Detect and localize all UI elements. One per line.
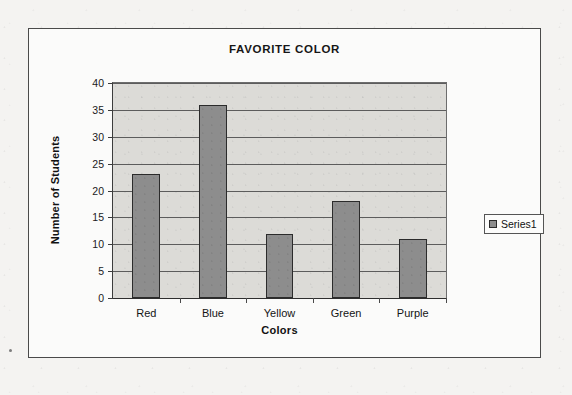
x-axis-title: Colors — [112, 324, 447, 336]
y-axis-tick — [108, 83, 113, 84]
scan-artifact-speck — [9, 349, 12, 352]
y-axis-tick-label: 20 — [92, 185, 104, 197]
y-axis-tick-label: 5 — [98, 265, 104, 277]
x-axis-tick — [246, 298, 247, 303]
y-axis-tick-label: 25 — [92, 158, 104, 170]
gridline — [113, 83, 446, 84]
gridline — [113, 137, 446, 138]
y-axis-title: Number of Students — [49, 136, 61, 245]
y-axis-tick — [108, 217, 113, 218]
x-axis-tick — [180, 298, 181, 303]
y-axis-tick-label: 30 — [92, 131, 104, 143]
x-axis-category-label: Yellow — [264, 307, 295, 319]
chart-legend: Series1 — [484, 214, 544, 234]
scanned-page-background: FAVORITE COLOR Number of Students 051015… — [0, 0, 572, 395]
x-axis-category-label: Green — [331, 307, 362, 319]
x-axis-tick — [446, 298, 447, 303]
gridline — [113, 164, 446, 165]
gridline — [113, 217, 446, 218]
x-axis-tick — [379, 298, 380, 303]
bar-red — [132, 174, 160, 298]
y-axis-tick — [108, 110, 113, 111]
gridline — [113, 110, 446, 111]
y-axis-tick-label: 0 — [98, 292, 104, 304]
y-axis-tick-label: 10 — [92, 238, 104, 250]
y-axis-tick — [108, 191, 113, 192]
y-axis-tick-label: 40 — [92, 77, 104, 89]
x-axis-category-label: Red — [136, 307, 156, 319]
x-axis-category-label: Blue — [202, 307, 224, 319]
chart-title: FAVORITE COLOR — [29, 43, 540, 55]
x-axis-tick — [313, 298, 314, 303]
bar-green — [332, 201, 360, 298]
x-axis-category-label: Purple — [397, 307, 429, 319]
bar-yellow — [266, 234, 294, 299]
gridline — [113, 191, 446, 192]
bar-purple — [399, 239, 427, 298]
y-axis-tick — [108, 137, 113, 138]
plot-area: 0510152025303540RedBlueYellowGreenPurple — [112, 82, 447, 298]
axis-baseline — [113, 298, 446, 299]
legend-entry-label: Series1 — [501, 218, 537, 230]
bar-blue — [199, 105, 227, 299]
chart-frame: FAVORITE COLOR Number of Students 051015… — [28, 28, 541, 358]
series-color-swatch — [489, 220, 497, 228]
y-axis-tick — [108, 271, 113, 272]
y-axis-tick — [108, 244, 113, 245]
y-axis-tick — [108, 164, 113, 165]
y-axis-tick-label: 15 — [92, 211, 104, 223]
y-axis-tick-label: 35 — [92, 104, 104, 116]
y-axis-tick — [108, 298, 113, 299]
